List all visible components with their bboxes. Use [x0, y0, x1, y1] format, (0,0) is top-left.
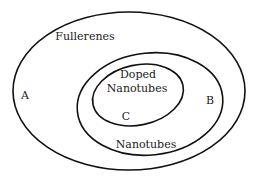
doped-label: Doped: [120, 68, 156, 81]
region-b-label: B: [206, 94, 214, 107]
region-c-label: C: [122, 110, 130, 123]
doped-nanotubes-label: Nanotubes: [107, 82, 168, 95]
nanotubes-label: Nanotubes: [116, 138, 177, 151]
venn-diagram: Fullerenes A B Nanotubes Doped Nanotubes…: [0, 0, 257, 180]
region-a-label: A: [21, 89, 29, 102]
fullerenes-label: Fullerenes: [55, 30, 114, 43]
